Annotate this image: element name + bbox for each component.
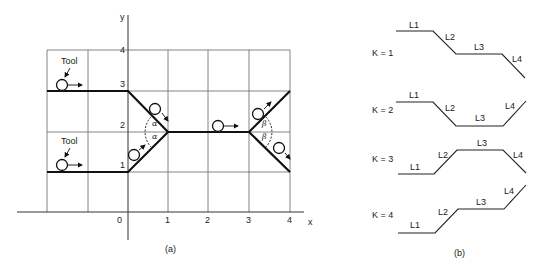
k4-l1: L1	[410, 221, 420, 230]
k3-l3: L3	[477, 139, 487, 148]
figure-b-paths	[396, 31, 526, 233]
k1-l1: L1	[409, 21, 419, 30]
alpha-upper: α	[152, 120, 157, 128]
tool-right-down	[274, 143, 285, 154]
tool-label-upper: Tool	[61, 57, 78, 66]
k4-l4: L4	[504, 187, 514, 196]
lower-path	[47, 132, 290, 172]
tool-diag-down	[150, 104, 161, 115]
y-tick-2: 2	[120, 121, 125, 130]
k2-l4: L4	[505, 102, 515, 111]
beta-lower: β	[262, 133, 267, 141]
k1-l3: L3	[474, 43, 484, 52]
beta-upper: β	[262, 120, 267, 128]
k3-l1: L1	[410, 163, 420, 172]
tool-right-up	[253, 109, 264, 120]
k2-l3: L3	[475, 114, 485, 123]
y-axis-label: y	[120, 13, 125, 22]
k2-l2: L2	[445, 104, 455, 113]
y-tick-3: 3	[120, 80, 125, 89]
k3-l2: L2	[438, 151, 448, 160]
k4-l3: L3	[476, 198, 486, 207]
k1-l4: L4	[512, 55, 522, 64]
k1-label: K = 1	[372, 49, 393, 58]
diagram-canvas	[0, 0, 541, 267]
caption-b: (b)	[454, 249, 465, 258]
k1-path	[396, 31, 525, 78]
x-tick-0: 0	[117, 216, 122, 225]
caption-a: (a)	[165, 245, 176, 254]
x-tick-2: 2	[205, 216, 210, 225]
alpha-lower: α	[152, 133, 157, 141]
tool-diag-up	[129, 150, 140, 161]
x-axis-label: x	[308, 218, 313, 227]
k3-l4: L4	[513, 151, 523, 160]
y-tick-1: 1	[120, 161, 125, 170]
tool-paths	[47, 91, 290, 172]
tool-upper-left	[57, 80, 68, 91]
axes	[17, 15, 304, 240]
k2-label: K = 2	[372, 106, 393, 115]
k4-l2: L2	[438, 208, 448, 217]
x-tick-1: 1	[165, 216, 170, 225]
tool-middle	[213, 121, 224, 132]
tools	[57, 80, 285, 171]
k2-l1: L1	[409, 91, 419, 100]
k1-l2: L2	[445, 33, 455, 42]
k4-label: K = 4	[372, 211, 393, 220]
y-tick-4: 4	[120, 46, 125, 55]
x-tick-4: 4	[287, 216, 292, 225]
tool-label-lower: Tool	[61, 137, 78, 146]
x-tick-3: 3	[246, 216, 251, 225]
tool-lower-left	[57, 160, 68, 171]
k3-label: K = 3	[372, 155, 393, 164]
